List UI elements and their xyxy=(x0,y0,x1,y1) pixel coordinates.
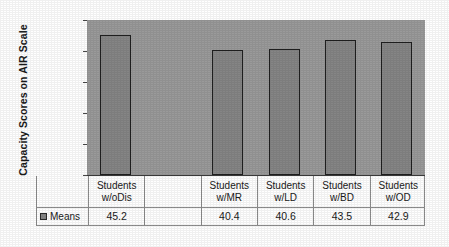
category-cell-students-w-odis: Studentsw/oDis xyxy=(88,176,144,207)
mean-value: 42.9 xyxy=(388,211,408,223)
category-label-line: w/oDis xyxy=(102,192,132,204)
category-cell-students-w-od: Studentsw/OD xyxy=(370,176,426,207)
y-tick-mark-40 xyxy=(83,51,87,52)
mean-value: 40.4 xyxy=(219,211,239,223)
mean-value-cell-students-w-od: 42.9 xyxy=(370,208,426,225)
category-cell-students-w-mr: Studentsw/MR xyxy=(201,176,257,207)
y-tick-mark-50 xyxy=(83,20,87,21)
mean-value-cell-students-w-odis: 45.2 xyxy=(88,208,144,225)
bar-students-w-bd xyxy=(325,40,356,175)
plot-area xyxy=(87,20,425,175)
mean-value-cell-students-w-ld: 40.6 xyxy=(257,208,313,225)
legend-cell: Means xyxy=(37,208,88,225)
bar-students-w-odis xyxy=(100,35,131,175)
y-tick-mark-30 xyxy=(83,82,87,83)
legend-series-label: Means xyxy=(50,211,80,222)
data-table: Studentsw/oDisStudentsw/MRStudentsw/LDSt… xyxy=(36,176,425,226)
mean-value: 45.2 xyxy=(106,211,126,223)
bar-students-w-mr xyxy=(212,50,243,175)
category-label-line: w/MR xyxy=(217,192,243,204)
category-label-line: Students xyxy=(322,180,361,192)
category-cell-students-w-ld: Studentsw/LD xyxy=(257,176,313,207)
category-label-line: Students xyxy=(210,180,249,192)
y-axis-title: Capacity Scores on AIR Scale xyxy=(17,15,29,185)
legend-swatch-icon xyxy=(40,213,47,220)
mean-value-cell-students-w-mr: 40.4 xyxy=(201,208,257,225)
mean-value: 43.5 xyxy=(332,211,352,223)
mean-value-cell-empty-1 xyxy=(144,208,200,225)
y-tick-mark-20 xyxy=(83,113,87,114)
bar-students-w-ld xyxy=(269,49,300,175)
means-data-row: Means45.240.440.643.542.9 xyxy=(37,207,424,225)
category-label-line: Students xyxy=(379,180,418,192)
category-label-line: w/OD xyxy=(386,192,411,204)
category-cell-empty-1 xyxy=(144,176,200,207)
mean-value: 40.6 xyxy=(275,211,295,223)
category-label-line: Students xyxy=(266,180,305,192)
y-tick-mark-10 xyxy=(83,144,87,145)
bar-students-w-od xyxy=(381,42,412,175)
category-label-line: w/BD xyxy=(330,192,354,204)
category-label-line: w/LD xyxy=(274,192,297,204)
category-row-corner-cell xyxy=(37,176,88,207)
category-cell-students-w-bd: Studentsw/BD xyxy=(313,176,369,207)
category-header-row: Studentsw/oDisStudentsw/MRStudentsw/LDSt… xyxy=(37,176,424,207)
plot-inner xyxy=(87,20,425,175)
category-label-line: Students xyxy=(97,180,136,192)
bar-chart-figure: Capacity Scores on AIR Scale 01020304050… xyxy=(0,0,449,247)
mean-value-cell-students-w-bd: 43.5 xyxy=(313,208,369,225)
